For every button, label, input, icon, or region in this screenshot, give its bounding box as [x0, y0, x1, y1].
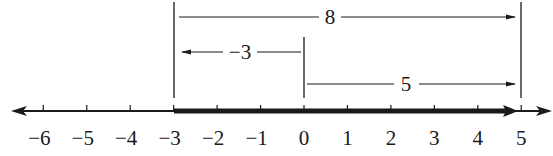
tick-label: −5: [72, 126, 94, 150]
tick-label: 4: [473, 126, 484, 150]
measure-8-label: 8: [325, 5, 336, 29]
tick-label: −1: [245, 126, 267, 150]
measure-neg3-label: −3: [229, 40, 251, 64]
tick-label: 0: [299, 126, 310, 150]
measure-5-label: 5: [401, 72, 412, 96]
measure-5: 5: [307, 72, 515, 96]
tick-label: 3: [429, 126, 440, 150]
tick-label: 5: [516, 126, 527, 150]
tick-label: −6: [28, 126, 50, 150]
tick-label: 1: [342, 126, 353, 150]
measure-neg3: −3: [182, 40, 301, 64]
measure-8: 8: [179, 5, 515, 29]
tick-label: −2: [202, 126, 224, 150]
highlighted-segment: [174, 105, 518, 117]
tick-label: −3: [158, 126, 180, 150]
number-line-diagram: −6−5−4−3−2−1012345 8 −3 5: [0, 0, 553, 156]
tick-label: −4: [115, 126, 138, 150]
axis-tick-labels: −6−5−4−3−2−1012345: [28, 126, 526, 150]
tick-label: 2: [386, 126, 397, 150]
